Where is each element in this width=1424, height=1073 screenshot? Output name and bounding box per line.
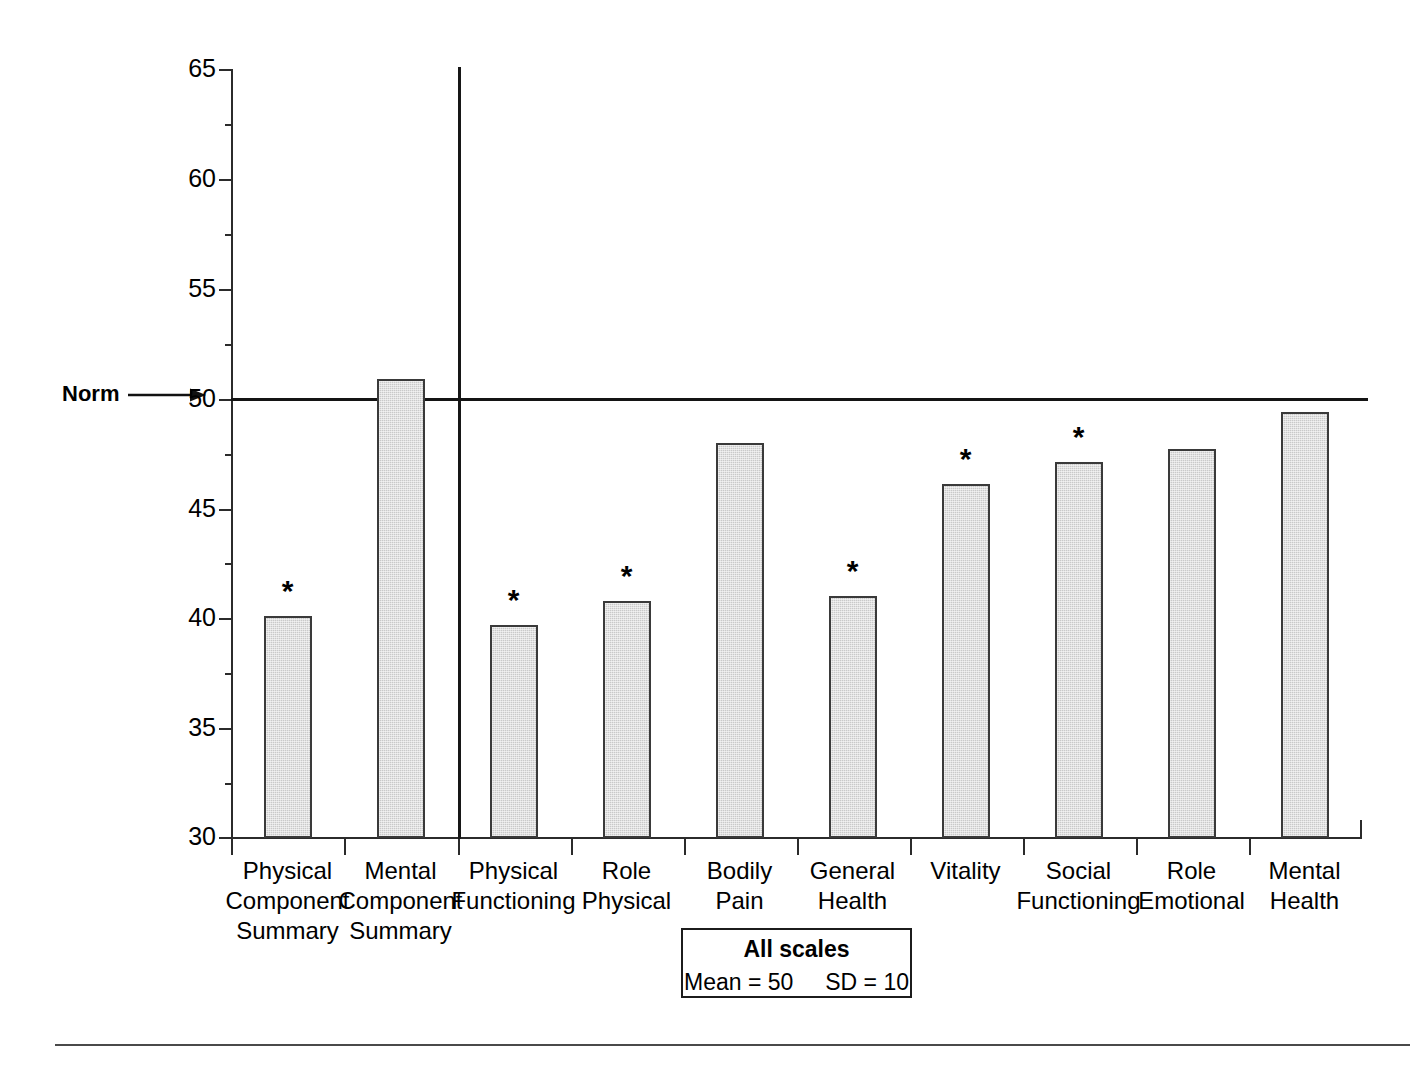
y-minor-tick	[225, 454, 231, 456]
bar-7	[942, 484, 990, 838]
bar-2	[377, 379, 425, 838]
x-tick	[684, 839, 686, 855]
category-label-7: Vitality	[900, 856, 1031, 886]
x-tick	[344, 839, 346, 855]
x-tick	[1023, 839, 1025, 855]
significance-star-1: *	[231, 576, 344, 606]
y-tick-40	[219, 618, 231, 620]
significance-star-8: *	[1022, 422, 1135, 452]
x-tick	[231, 839, 233, 855]
y-tick-35	[219, 728, 231, 730]
significance-star-6: *	[796, 556, 909, 586]
x-tick	[797, 839, 799, 855]
y-axis-line	[231, 69, 233, 839]
x-tick	[910, 839, 912, 855]
y-tick-label-35: 35	[188, 715, 216, 740]
category-label-1: Physical Component Summary	[222, 856, 353, 946]
category-label-10: Mental Health	[1239, 856, 1370, 916]
sf36-norm-based-bar-chart: Norm 65 60 55 50 45 40 35 30 ****** Phy	[0, 0, 1424, 1073]
category-label-6: General Health	[787, 856, 918, 916]
y-tick-45	[219, 509, 231, 511]
bar-4	[603, 601, 651, 838]
category-label-9: Role Emotional	[1126, 856, 1257, 916]
y-tick-label-30: 30	[188, 824, 216, 849]
category-label-3: Physical Functioning	[448, 856, 579, 916]
legend-stats: Mean = 50 SD = 10	[683, 971, 910, 994]
y-tick-label-45: 45	[188, 496, 216, 521]
y-tick-label-40: 40	[188, 605, 216, 630]
significance-star-4: *	[570, 561, 683, 591]
y-tick-60	[219, 179, 231, 181]
x-tick	[1136, 839, 1138, 855]
y-tick-label-55: 55	[188, 276, 216, 301]
y-minor-tick	[225, 344, 231, 346]
bottom-divider-rule	[55, 1044, 1410, 1046]
category-label-4: Role Physical	[561, 856, 692, 916]
x-tick	[458, 839, 460, 855]
y-tick-65	[219, 69, 231, 71]
y-tick-label-65: 65	[188, 56, 216, 81]
y-minor-tick	[225, 673, 231, 675]
category-label-8: Social Functioning	[1013, 856, 1144, 916]
bar-1	[264, 616, 312, 838]
y-tick-55	[219, 289, 231, 291]
bar-6	[829, 596, 877, 838]
y-minor-tick	[225, 563, 231, 565]
y-tick-30	[219, 837, 231, 839]
norm-reference-label: Norm	[62, 383, 119, 405]
x-tick	[571, 839, 573, 855]
y-minor-tick	[225, 234, 231, 236]
significance-star-3: *	[457, 585, 570, 615]
y-minor-tick	[225, 124, 231, 126]
category-label-5: Bodily Pain	[674, 856, 805, 916]
x-axis-end-tick	[1360, 820, 1362, 839]
significance-star-7: *	[909, 444, 1022, 474]
y-tick-label-50: 50	[188, 386, 216, 411]
category-label-2: Mental Component Summary	[335, 856, 466, 946]
bar-5	[716, 443, 764, 838]
bar-3	[490, 625, 538, 838]
summary-subscale-divider	[458, 67, 461, 839]
legend-title: All scales	[683, 938, 910, 961]
bar-9	[1168, 449, 1216, 838]
bar-10	[1281, 412, 1329, 838]
y-minor-tick	[225, 783, 231, 785]
y-tick-label-60: 60	[188, 166, 216, 191]
x-tick	[1249, 839, 1251, 855]
legend-box: All scales Mean = 50 SD = 10	[681, 928, 912, 998]
y-tick-50	[219, 399, 231, 401]
bar-8	[1055, 462, 1103, 838]
